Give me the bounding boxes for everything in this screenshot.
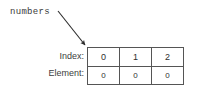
table-row-element: 0 0 0 xyxy=(88,67,184,85)
table-row-index: 0 1 2 xyxy=(88,48,184,67)
element-cell-2: 0 xyxy=(152,67,184,85)
array-diagram: numbers Index: Element: 0 1 2 0 0 0 xyxy=(0,0,197,95)
row-labels-column: Index: Element: xyxy=(10,47,84,82)
array-table: 0 1 2 0 0 0 xyxy=(87,47,184,85)
element-row-label: Element: xyxy=(10,67,84,80)
index-cell-0: 0 xyxy=(88,48,120,67)
element-cell-0: 0 xyxy=(88,67,120,85)
variable-name-label: numbers xyxy=(10,7,50,18)
element-cell-1: 0 xyxy=(120,67,152,85)
index-cell-2: 2 xyxy=(152,48,184,67)
index-cell-1: 1 xyxy=(120,48,152,67)
index-row-label: Index: xyxy=(10,50,84,63)
